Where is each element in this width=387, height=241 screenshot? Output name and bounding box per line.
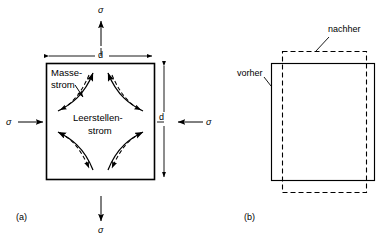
panel-b-tag: (b) bbox=[244, 213, 255, 222]
figure-vector-layer bbox=[0, 0, 387, 241]
after-label-leader bbox=[316, 37, 329, 51]
vacancy-flow-label-line2: strom bbox=[88, 126, 112, 136]
stress-label-right: σ bbox=[206, 118, 211, 127]
after-shape-rect bbox=[283, 52, 367, 193]
dimension-label-width: d bbox=[98, 51, 103, 60]
vacancy-flow-curve-lower-left bbox=[60, 133, 89, 168]
stress-label-left: σ bbox=[6, 118, 11, 127]
panel-a-tag: (a) bbox=[16, 213, 27, 222]
before-shape-rect bbox=[272, 64, 375, 181]
vacancy-flow-curve-lower-right bbox=[112, 133, 141, 168]
vacancy-flow-curve-upper-right bbox=[112, 75, 141, 110]
after-label: nachher bbox=[328, 25, 361, 34]
before-label-leader bbox=[264, 77, 271, 86]
mass-flow-label-line1: Masse- bbox=[51, 68, 82, 78]
creep-diagram-figure: σ σ σ σ d d Masse- strom Leerstellen- st… bbox=[0, 0, 387, 241]
before-label: vorher bbox=[237, 69, 263, 78]
stress-label-top: σ bbox=[98, 6, 103, 15]
dimension-label-height: d bbox=[159, 113, 164, 122]
mass-flow-label-line2: strom bbox=[51, 80, 75, 90]
stress-label-bottom: σ bbox=[98, 226, 103, 235]
vacancy-flow-label-line1: Leerstellen- bbox=[73, 113, 123, 123]
